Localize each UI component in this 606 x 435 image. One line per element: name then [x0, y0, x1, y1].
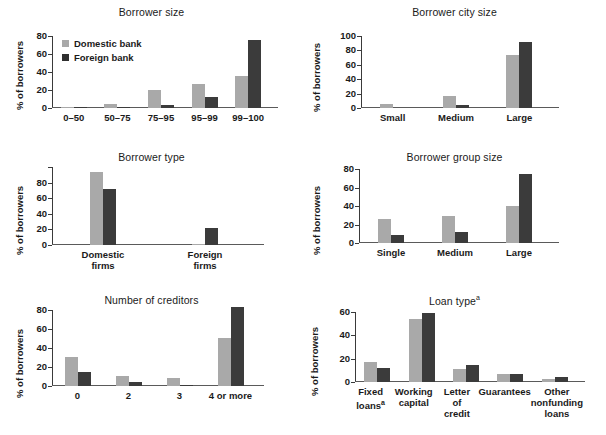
panel-title: Borrower group size [303, 151, 606, 163]
y-axis-label: % of borrowers [14, 41, 25, 110]
y-axis-tick [48, 386, 52, 387]
bar-domestic [65, 357, 78, 386]
bar-foreign [103, 189, 116, 245]
y-axis-tick [357, 79, 361, 80]
bar-group [205, 310, 256, 386]
legend: Domestic bank Foreign bank [62, 38, 142, 66]
bar-group [154, 310, 205, 386]
legend-swatch-domestic-icon [62, 40, 69, 47]
y-axis-tick-label: 60 [36, 193, 47, 203]
y-axis-tick-label: 20 [343, 220, 354, 230]
y-axis-tick [355, 243, 359, 244]
panel-number-of-creditors: Number of creditors % of borrowers 02040… [0, 288, 303, 435]
bar-domestic [218, 338, 231, 386]
bar-group [533, 312, 577, 382]
plot-area: 020406080 [52, 167, 256, 245]
y-axis-tick-label: 20 [345, 89, 356, 99]
y-axis-tick-label: 80 [343, 164, 354, 174]
y-axis-tick-label: 40 [339, 331, 350, 341]
bar-domestic [104, 104, 117, 109]
x-tick-label: Medium [424, 112, 487, 123]
y-axis-tick [48, 214, 52, 215]
bar-foreign [248, 40, 261, 108]
bar-group [154, 167, 256, 245]
y-axis-tick-label: 0 [42, 381, 47, 391]
x-tick-label: 2 [103, 390, 154, 401]
bar-group [226, 36, 270, 108]
bar-group [103, 310, 154, 386]
bar-foreign [78, 372, 91, 386]
bar-series-container [361, 36, 551, 108]
bar-domestic [364, 362, 377, 382]
x-tick-label: Large [487, 247, 551, 258]
bar-foreign [510, 374, 523, 382]
x-tick-label: Small [361, 112, 424, 123]
y-axis-label: % of borrowers [309, 327, 320, 396]
y-axis-tick [357, 65, 361, 66]
x-tick-label: Othernonfundingloans [531, 386, 583, 419]
x-tick-label: 0–50 [52, 112, 96, 123]
bar-domestic [409, 319, 422, 382]
bar-foreign [74, 107, 87, 108]
y-axis-tick-label: 60 [36, 324, 47, 334]
y-axis-tick-label: 40 [343, 201, 354, 211]
bar-domestic [497, 374, 510, 382]
panel-borrower-size: Borrower size % of borrowers 020406080 0… [0, 0, 303, 145]
y-axis-tick [48, 348, 52, 349]
y-axis-tick [48, 90, 52, 91]
panel-title: Loan typea [303, 294, 606, 307]
y-axis-tick-label: 20 [36, 225, 47, 235]
bar-foreign [180, 385, 193, 386]
x-tick-label: 3 [154, 390, 205, 401]
x-tick-label: Large [488, 112, 551, 123]
bar-foreign [466, 365, 479, 383]
y-axis-tick [48, 36, 52, 37]
y-axis-label: % of borrowers [311, 186, 322, 255]
x-tick-label: Domesticfirms [52, 249, 154, 271]
y-axis-tick-label: 20 [36, 85, 47, 95]
bar-group [52, 167, 154, 245]
bar-domestic [148, 90, 161, 108]
y-axis-tick [48, 367, 52, 368]
y-axis-tick-label: 40 [36, 209, 47, 219]
y-axis-tick-label: 0 [351, 103, 356, 113]
bar-domestic [378, 219, 391, 243]
bar-domestic [442, 216, 455, 243]
x-tick-label: 50–75 [96, 112, 140, 123]
bar-foreign [161, 105, 174, 108]
y-axis-label: % of borrowers [14, 329, 25, 398]
bar-domestic [235, 76, 248, 108]
bar-group [424, 36, 487, 108]
bar-group [183, 36, 227, 108]
y-axis-tick [357, 36, 361, 37]
x-tick-label: 4 or more [205, 390, 256, 401]
bar-series-container [52, 310, 256, 386]
y-axis-tick-label: 40 [36, 67, 47, 77]
bar-group [488, 312, 532, 382]
y-axis-tick-label: 60 [343, 183, 354, 193]
y-axis-tick [351, 359, 355, 360]
chart-grid: Borrower size % of borrowers 020406080 0… [0, 0, 606, 435]
plot-area: 020406080 [359, 169, 551, 243]
y-axis-tick-label: 20 [339, 354, 350, 364]
y-axis-tick [355, 169, 359, 170]
bar-group [361, 36, 424, 108]
y-axis-tick [355, 225, 359, 226]
legend-item-domestic: Domestic bank [62, 38, 142, 49]
bar-domestic [116, 376, 129, 386]
bar-foreign [555, 377, 568, 382]
bar-foreign [231, 307, 244, 386]
y-axis-tick-label: 40 [345, 74, 356, 84]
legend-swatch-foreign-icon [62, 54, 69, 61]
y-axis-tick-label: 0 [349, 238, 354, 248]
y-axis-tick [48, 108, 52, 109]
x-tick-labels: FixedloansaWorkingcapitalLetterofcreditG… [349, 386, 583, 419]
bar-group [423, 169, 487, 243]
bar-foreign [455, 232, 468, 243]
y-axis-tick [48, 310, 52, 311]
x-tick-label: 75–95 [139, 112, 183, 123]
y-axis-tick [48, 54, 52, 55]
bar-domestic [90, 172, 103, 245]
y-axis-tick-label: 80 [36, 31, 47, 41]
legend-item-foreign: Foreign bank [62, 52, 142, 63]
